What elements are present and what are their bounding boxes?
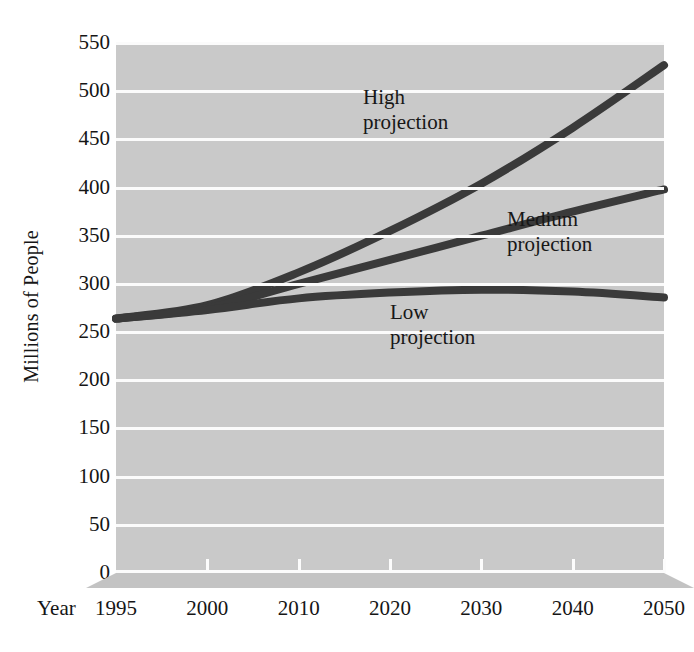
y-axis-tick-label: 150 — [38, 417, 110, 438]
gridline — [116, 283, 664, 286]
x-axis-tick-label: 2000 — [186, 596, 228, 620]
gridline — [116, 138, 664, 141]
gridline — [116, 42, 664, 45]
y-axis-tick-label: 250 — [38, 321, 110, 342]
annotation-low-projection-line2: projection — [390, 325, 475, 350]
y-axis-tick-label: 200 — [38, 369, 110, 390]
y-axis-tick-label: 400 — [38, 177, 110, 198]
annotation-high-projection-line1: High — [363, 85, 448, 110]
x-axis-tick-label: 2010 — [278, 596, 320, 620]
x-axis-tick-label: 2040 — [552, 596, 594, 620]
chart-base-right-bevel — [664, 573, 694, 588]
gridline — [116, 379, 664, 382]
annotation-high-projection: High projection — [363, 85, 448, 135]
annotation-medium-projection-line1: Medium — [507, 207, 592, 232]
y-axis-tick-label: 100 — [38, 466, 110, 487]
y-axis-tick-label: 300 — [38, 273, 110, 294]
annotation-medium-projection: Medium projection — [507, 207, 592, 257]
gridline — [116, 524, 664, 527]
y-axis-tick-label: 450 — [38, 128, 110, 149]
annotation-high-projection-line2: projection — [363, 110, 448, 135]
x-axis-tick-label: 2020 — [369, 596, 411, 620]
annotation-low-projection: Low projection — [390, 300, 475, 350]
x-axis-tick-label: 2030 — [460, 596, 502, 620]
chart-base-left-bevel — [86, 573, 116, 588]
x-axis-tick-label: 1995 — [95, 596, 137, 620]
y-axis-tick-label: 500 — [38, 80, 110, 101]
gridline — [116, 427, 664, 430]
y-axis-tick-label: 550 — [38, 32, 110, 53]
gridline — [116, 187, 664, 190]
x-axis-tick-labels: 1995200020102020203020402050 — [0, 596, 689, 626]
y-axis-tick-label: 350 — [38, 225, 110, 246]
y-axis-tick-labels: 050100150200250300350400450500550 — [38, 0, 110, 652]
chart-base-front — [116, 573, 664, 588]
gridline — [116, 476, 664, 479]
annotation-low-projection-line1: Low — [390, 300, 475, 325]
x-axis-tick-label: 2050 — [643, 596, 685, 620]
y-axis-tick-label: 50 — [38, 514, 110, 535]
annotation-medium-projection-line2: projection — [507, 232, 592, 257]
